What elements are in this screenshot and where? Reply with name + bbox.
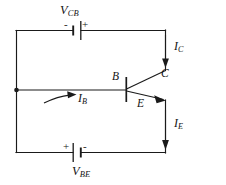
label-v-cb: VCB [60, 4, 79, 17]
top-battery-positive-sign: + [82, 19, 88, 30]
current-ib-shaft [44, 95, 70, 103]
circuit-diagram-figure: - + + - VCB VBE IC IE IB B C E [0, 0, 226, 185]
label-i-e: IE [174, 117, 183, 129]
current-ib-arrowhead-icon [67, 91, 76, 98]
label-v-cb-subscript: CB [68, 8, 79, 18]
label-terminal-collector: C [161, 68, 169, 80]
current-ie-arrowhead-icon [162, 140, 169, 150]
transistor-collector-lead [127, 71, 166, 90]
label-i-c: IC [174, 40, 184, 52]
label-i-b: IB [78, 92, 87, 104]
bottom-battery-positive-sign: + [63, 141, 69, 152]
label-v-be-symbol: V [72, 164, 80, 178]
label-v-cb-symbol: V [60, 3, 68, 17]
emitter-arrowhead-icon [154, 95, 166, 103]
label-terminal-emitter: E [137, 98, 144, 110]
base-junction-dot [14, 88, 19, 93]
label-i-e-subscript: E [178, 122, 183, 131]
label-v-be-subscript: BE [80, 169, 91, 179]
top-battery-negative-sign: - [64, 19, 68, 30]
label-v-be: VBE [72, 165, 90, 178]
label-i-c-subscript: C [178, 45, 184, 54]
label-i-b-subscript: B [82, 97, 87, 106]
bottom-battery-negative-sign: - [83, 141, 87, 152]
circuit-schematic [0, 0, 226, 185]
label-terminal-base: B [112, 71, 119, 83]
